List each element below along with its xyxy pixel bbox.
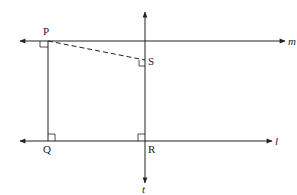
label-t: t	[142, 183, 146, 195]
diagram-svg: P S Q R m l t	[0, 0, 297, 195]
label-s: S	[148, 55, 154, 67]
label-l: l	[275, 135, 278, 147]
right-angle-q	[48, 134, 55, 141]
right-angle-r	[138, 134, 145, 141]
label-m: m	[288, 35, 296, 47]
segment-ps-dashed	[48, 41, 145, 60]
label-q: Q	[43, 143, 51, 155]
label-r: R	[148, 143, 156, 155]
right-angle-p	[40, 41, 48, 47]
right-angle-s	[139, 60, 145, 66]
geometry-diagram: P S Q R m l t	[0, 0, 297, 195]
label-p: P	[43, 25, 49, 37]
